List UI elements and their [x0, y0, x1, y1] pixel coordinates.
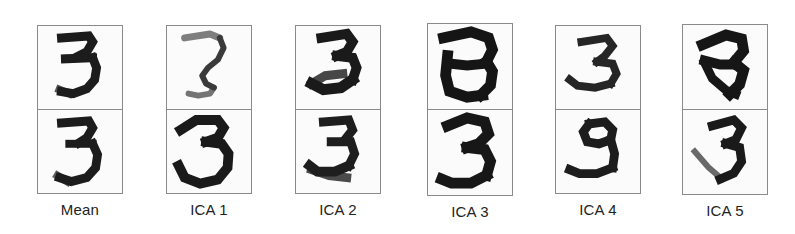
- panel-ica-2-label: ICA 2: [319, 201, 357, 218]
- ica-digit-grid-figure: Mean: [0, 0, 795, 234]
- panel-ica-3: ICA 3: [427, 23, 513, 220]
- cell-ica-2-bottom: [296, 109, 380, 194]
- panel-ica-2: ICA 2: [295, 25, 381, 218]
- digit-3-image: [556, 110, 640, 194]
- digit-3-image: [683, 25, 767, 109]
- panel-ica-1-stack: [166, 25, 252, 194]
- panel-ica-5: ICA 5: [682, 24, 768, 219]
- digit-3-image: [556, 26, 640, 109]
- digit-3-image: [296, 26, 380, 109]
- panel-mean-stack: [37, 25, 123, 194]
- digit-3-image: [38, 110, 122, 194]
- cell-ica-3-bottom: [428, 109, 512, 195]
- cell-ica-4-bottom: [556, 109, 640, 194]
- panel-ica-3-stack: [427, 23, 513, 196]
- panel-ica-1-label: ICA 1: [190, 201, 228, 218]
- digit-3-image: [296, 110, 380, 194]
- digit-3-image: [167, 26, 251, 109]
- panel-ica-5-label: ICA 5: [706, 202, 744, 219]
- panel-ica-4-label: ICA 4: [579, 201, 617, 218]
- panel-mean-label: Mean: [61, 201, 99, 218]
- panel-ica-3-label: ICA 3: [451, 203, 489, 220]
- digit-3-image: [38, 26, 122, 109]
- panel-ica-5-stack: [682, 24, 768, 195]
- digit-3-image: [428, 24, 512, 109]
- cell-ica-2-top: [296, 26, 380, 109]
- panel-ica-4-stack: [555, 25, 641, 194]
- panel-ica-2-stack: [295, 25, 381, 194]
- cell-mean-top: [38, 26, 122, 109]
- cell-ica-1-bottom: [167, 109, 251, 194]
- cell-mean-bottom: [38, 109, 122, 194]
- cell-ica-4-top: [556, 26, 640, 109]
- panel-ica-4: ICA 4: [555, 25, 641, 218]
- digit-3-image: [683, 110, 767, 194]
- digit-3-image: [428, 110, 512, 195]
- cell-ica-3-top: [428, 24, 512, 109]
- panel-ica-1: ICA 1: [166, 25, 252, 218]
- cell-ica-5-top: [683, 25, 767, 109]
- digit-3-image: [167, 110, 251, 194]
- cell-ica-5-bottom: [683, 109, 767, 194]
- panel-mean: Mean: [37, 25, 123, 218]
- cell-ica-1-top: [167, 26, 251, 109]
